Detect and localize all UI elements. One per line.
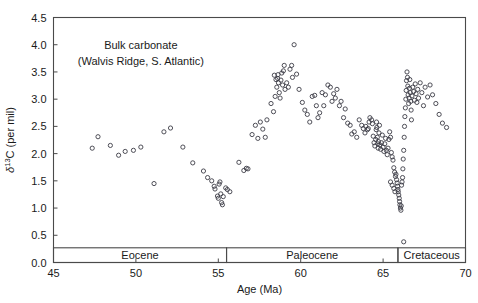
data-point	[316, 116, 320, 120]
data-point	[388, 130, 392, 134]
data-point	[250, 132, 254, 136]
y-tick-label-4.0: 4.0	[31, 39, 46, 51]
epoch-label-cretaceous: Cretaceous	[404, 249, 461, 261]
data-point	[162, 130, 166, 134]
annotation-line-2: (Walvis Ridge, S. Atlantic)	[78, 55, 204, 67]
data-point	[409, 118, 413, 122]
data-point	[380, 133, 384, 137]
data-point	[275, 85, 279, 89]
data-point	[402, 124, 406, 128]
data-point	[168, 126, 172, 130]
data-point	[290, 75, 294, 79]
data-point	[402, 135, 406, 139]
y-tick-label-1.5: 1.5	[31, 175, 46, 187]
data-point	[265, 118, 269, 122]
data-point	[303, 108, 307, 112]
data-point	[117, 153, 121, 157]
y-axis-title: δ13C (per mil)	[3, 107, 16, 173]
scatter-chart: 0.00.51.01.52.02.53.03.54.04.54550556065…	[0, 0, 478, 303]
y-tick-label-2.5: 2.5	[31, 120, 46, 132]
annotation-line-1: Bulk carbonate	[104, 39, 177, 51]
y-axis-title-text: δ13C (per mil)	[3, 107, 16, 173]
data-point	[300, 100, 304, 104]
data-point	[294, 72, 298, 76]
x-tick-label-60: 60	[295, 267, 307, 279]
data-point	[271, 110, 275, 114]
data-point	[278, 96, 282, 100]
epoch-label-eocene: Eocene	[121, 249, 158, 261]
data-point	[305, 112, 309, 116]
data-point	[416, 87, 420, 91]
data-point	[423, 85, 427, 89]
data-point	[430, 93, 434, 97]
data-point	[210, 179, 214, 183]
data-point	[253, 123, 257, 127]
data-point	[418, 81, 422, 85]
data-point	[191, 161, 195, 165]
data-point	[292, 43, 296, 47]
data-point	[322, 104, 326, 108]
data-point	[426, 95, 430, 99]
y-axis-rest: C (per mil)	[4, 107, 16, 158]
data-point	[420, 91, 424, 95]
data-point	[282, 63, 286, 67]
data-point	[108, 143, 112, 147]
data-point	[330, 99, 334, 103]
x-axis-title: Age (Ma)	[237, 283, 282, 295]
data-point	[277, 91, 281, 95]
data-point	[400, 175, 404, 179]
data-point	[343, 107, 347, 111]
data-point	[403, 114, 407, 118]
data-point	[256, 136, 260, 140]
y-tick-label-0.5: 0.5	[31, 229, 46, 241]
y-axis-superscript: 13	[3, 158, 12, 166]
data-point	[333, 96, 337, 100]
epoch-band-group: EocenePaleoceneCretaceous	[54, 248, 466, 263]
data-point	[355, 135, 359, 139]
data-point	[285, 81, 289, 85]
y-tick-label-3.0: 3.0	[31, 93, 46, 105]
data-point	[201, 169, 205, 173]
data-point	[416, 96, 420, 100]
data-point	[337, 104, 341, 108]
data-point	[332, 92, 336, 96]
data-point	[280, 83, 284, 87]
data-point	[385, 153, 389, 157]
data-point	[403, 106, 407, 110]
data-point	[308, 120, 312, 124]
data-point	[314, 104, 318, 108]
data-point	[96, 135, 100, 139]
data-point	[237, 160, 241, 164]
data-point	[273, 94, 277, 98]
data-point	[341, 116, 345, 120]
data-point	[297, 87, 301, 91]
y-tick-label-3.5: 3.5	[31, 66, 46, 78]
x-tick-label-65: 65	[377, 267, 389, 279]
data-point	[335, 87, 339, 91]
data-point	[444, 125, 448, 129]
data-point	[90, 146, 94, 150]
data-point	[339, 99, 343, 103]
data-point	[405, 70, 409, 74]
data-point	[428, 83, 432, 87]
data-point	[421, 104, 425, 108]
data-point	[363, 131, 367, 135]
x-tick-label-45: 45	[47, 267, 59, 279]
data-point	[131, 148, 135, 152]
data-point	[258, 120, 262, 124]
epoch-label-paleocene: Paleocene	[286, 249, 338, 261]
data-point	[392, 166, 396, 170]
data-point	[409, 108, 413, 112]
figure-container: 0.00.51.01.52.02.53.03.54.04.54550556065…	[0, 0, 478, 303]
data-point	[263, 135, 267, 139]
data-point	[205, 175, 209, 179]
data-point	[401, 157, 405, 161]
data-point	[401, 167, 405, 171]
data-point	[152, 181, 156, 185]
data-point	[318, 111, 322, 115]
y-tick-label-1.0: 1.0	[31, 202, 46, 214]
data-point	[213, 187, 217, 191]
data-points	[90, 43, 449, 244]
y-tick-label-0.0: 0.0	[31, 257, 46, 269]
data-point	[413, 82, 417, 86]
